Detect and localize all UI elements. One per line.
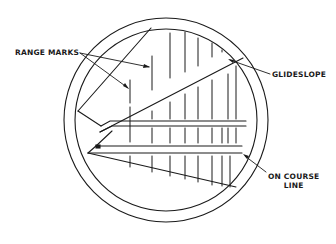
- on-course-line-label: ON COURSE LINE: [268, 172, 319, 190]
- on-course-label-line2: LINE: [268, 181, 319, 190]
- glideslope-label: GLIDESLOPE: [272, 70, 326, 79]
- glideslope-wedge: [78, 28, 243, 132]
- leader-lines: [80, 53, 270, 172]
- scope-outer-ring: [64, 18, 268, 222]
- range-marks-upper: [130, 32, 236, 119]
- on-course-label-line1: ON COURSE: [268, 172, 319, 181]
- arrowhead-range-2: [123, 83, 129, 89]
- elevation-trace: [100, 121, 246, 132]
- scope-diagram: [0, 0, 336, 244]
- range-marks-label: RANGE MARKS: [15, 48, 79, 57]
- range-marks-middle: [130, 107, 236, 143]
- azimuth-wedge: [88, 131, 242, 187]
- arrowhead-glideslope: [228, 59, 234, 63]
